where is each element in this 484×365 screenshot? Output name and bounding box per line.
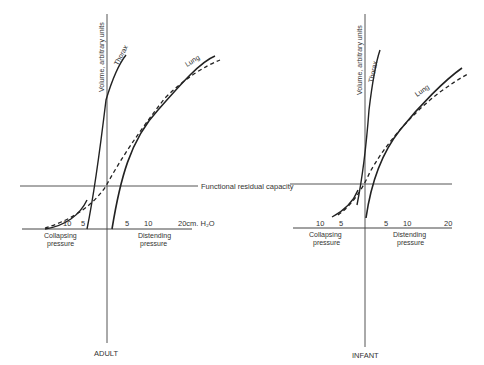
adult-collapsing-label-2: pressure [47,240,74,248]
pressure-volume-diagram: Functional residual capacity Thorax Lung… [0,0,484,365]
infant-tick-end: 20 [444,219,452,228]
infant-panel: Thorax Lung Volume, arbitrary units 10 5… [293,14,468,360]
adult-tick-end: 20cm. H₂O [178,219,215,228]
adult-lung-curve [112,56,215,229]
adult-tick-5-left: 5 [81,219,85,228]
infant-distending-label: Distending [393,231,426,239]
infant-lung-curve [366,68,462,218]
adult-tick-10-right: 10 [144,219,152,228]
infant-collapsing-label: Collapsing [309,231,342,239]
adult-tick-5-right: 5 [125,219,129,228]
infant-thorax-label: Thorax [367,60,378,83]
infant-title: INFANT [352,351,379,360]
adult-distending-label-2: pressure [140,240,167,248]
infant-tick-10-right: 10 [403,219,411,228]
infant-tick-5-right: 5 [384,219,388,228]
infant-tick-5-left: 5 [339,219,343,228]
infant-tick-10-left: 10 [316,219,324,228]
infant-collapsing-label-2: pressure [313,239,340,247]
infant-y-axis-label: Volume, arbitrary units [356,25,364,95]
adult-distending-label: Distending [138,232,171,240]
adult-title: ADULT [94,349,118,358]
frc-label: Functional residual capacity [201,182,294,191]
adult-y-axis-label: Volume, arbitrary units [98,22,106,92]
adult-combined-curve [45,60,220,228]
adult-collapsing-label: Collapsing [44,232,77,240]
infant-distending-label-2: pressure [397,239,424,247]
adult-tick-10-left: 10 [63,219,71,228]
adult-panel: Functional residual capacity Thorax Lung… [20,14,452,358]
infant-lung-label: Lung [414,83,431,99]
infant-chest-low-curve [332,190,358,217]
